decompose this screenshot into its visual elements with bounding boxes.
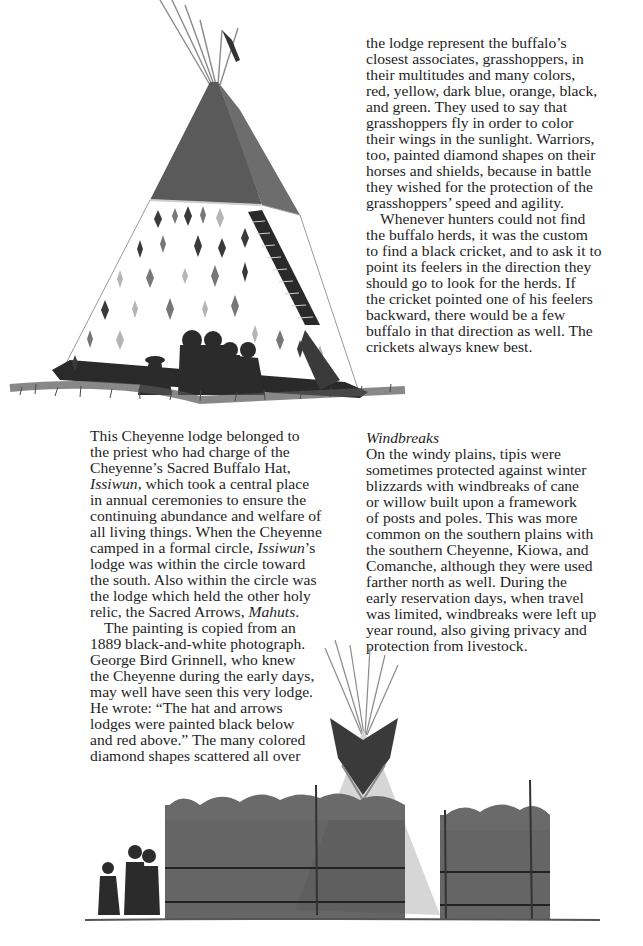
right-column-top: the lodge represent the buffalo’s closes… [366,35,638,355]
text-line: they wished for the protection of the [366,179,638,195]
text-line: in annual ceremonies to ensure the [90,492,350,508]
text-line: of posts and poles. This was more [366,510,638,526]
text-line: This Cheyenne lodge belonged to [90,428,350,444]
text-line: Comanche, although they were used [366,558,638,574]
text-line: Cheyenne’s Sacred Buffalo Hat, [90,460,350,476]
text-line: was limited, windbreaks were left up [366,606,638,622]
text-fragment: ’s [305,539,315,556]
text-line: crickets always knew best. [366,339,638,355]
text-line: early reservation days, when travel [366,590,638,606]
text-line: lodge was within the circle toward [90,556,350,572]
text-line: the priest who had charge of the [90,444,350,460]
text-line: The painting is copied from an [90,620,350,636]
italic-term: Issiwun [90,475,138,492]
standing-figures [98,845,160,915]
text-line: Issiwun, which took a central place [90,476,350,492]
text-line: too, painted diamond shapes on their [366,147,638,163]
text-fragment: . [295,603,299,620]
windbreak-illustration [80,640,620,940]
lodge-poles [325,640,398,735]
text-line: to find a black cricket, and to ask it t… [366,243,638,259]
text-line: the south. Also within the circle was [90,572,350,588]
paragraph-cricket: Whenever hunters could not find the buff… [366,211,638,355]
paragraph-grasshoppers: the lodge represent the buffalo’s closes… [366,35,638,211]
text-line: the cricket pointed one of his feelers [366,291,638,307]
paragraph-lodge: This Cheyenne lodge belonged to the prie… [90,428,350,620]
text-line: the lodge which held the other holy [90,588,350,604]
text-line: buffalo in that direction as well. The [366,323,638,339]
text-line: year round, also giving privacy and [366,622,638,638]
feather-streamer [222,30,240,62]
text-fragment: , which took a central place [138,475,309,492]
italic-term: Issiwun [257,539,305,556]
text-line: grasshoppers fly in order to color [366,115,638,131]
text-line: Whenever hunters could not find [366,211,638,227]
text-line: the lodge represent the buffalo’s [366,35,638,51]
text-line: closest associates, grasshoppers, in [366,51,638,67]
text-line: their multitudes and many colors, [366,67,638,83]
text-line: and green. They used to say that [366,99,638,115]
text-line: common on the southern plains with [366,526,638,542]
windbreak-fence-right [440,780,550,920]
text-fragment: camped in a formal circle, [90,539,257,556]
text-line: all living things. When the Cheyenne [90,524,350,540]
paragraph-windbreaks: On the windy plains, tipis were sometime… [366,446,638,654]
text-line: continuing abundance and welfare of [90,508,350,524]
text-line: red, yellow, dark blue, orange, black, [366,83,638,99]
text-line: their wings in the sunlight. Warriors, [366,131,638,147]
text-line: grasshoppers’ speed and agility. [366,195,638,211]
text-line: relic, the Sacred Arrows, Mahuts. [90,604,350,620]
text-line: sometimes protected against winter [366,462,638,478]
text-line: On the windy plains, tipis were [366,446,638,462]
ground [85,919,600,920]
text-fragment: relic, the Sacred Arrows, [90,603,248,620]
windbreak-fence-left [165,793,405,920]
section-heading-windbreaks: Windbreaks [366,430,638,446]
text-line: blizzards with windbreaks of cane [366,478,638,494]
text-line: the southern Cheyenne, Kiowa, and [366,542,638,558]
text-line: horses and shields, because in battle [366,163,638,179]
text-line: backward, there would be a few [366,307,638,323]
text-line: should go to look for the herds. If [366,275,638,291]
text-line: or willow built upon a framework [366,494,638,510]
text-line: the buffalo herds, it was the custom [366,227,638,243]
lodge-poles [160,0,238,85]
text-line: farther north as well. During the [366,574,638,590]
text-line: camped in a formal circle, Issiwun’s [90,540,350,556]
italic-term: Mahuts [248,603,295,620]
text-line: point its feelers in the direction they [366,259,638,275]
tipi-illustration [0,0,420,420]
right-column-bottom: Windbreaks On the windy plains, tipis we… [366,430,638,654]
